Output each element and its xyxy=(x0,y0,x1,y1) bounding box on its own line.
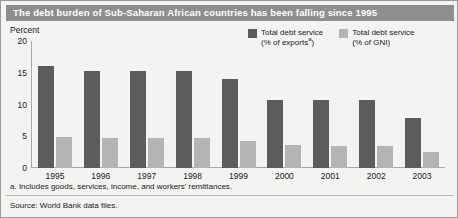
page-title: The debt burden of Sub-Saharan African c… xyxy=(13,7,377,18)
bar-group: 2003 xyxy=(399,41,445,168)
bar xyxy=(423,152,439,169)
x-axis-tick-label: 1996 xyxy=(91,171,110,181)
title-band: The debt burden of Sub-Saharan African c… xyxy=(6,5,454,21)
figure-panel: The debt burden of Sub-Saharan African c… xyxy=(0,0,458,218)
x-axis-tick-label: 1997 xyxy=(137,171,156,181)
source-text: Source: World Bank data files. xyxy=(10,201,117,210)
bar-group: 2001 xyxy=(307,41,353,168)
bar xyxy=(102,138,118,168)
bar xyxy=(222,79,238,168)
bar-group: 1999 xyxy=(216,41,262,168)
legend-swatch-light-gray xyxy=(339,29,348,38)
y-axis-tick-label: 5 xyxy=(22,131,27,141)
bar xyxy=(313,100,329,168)
bar-group: 1997 xyxy=(124,41,170,168)
bar xyxy=(267,100,283,168)
footnote-text: a. Includes goods, services, income, and… xyxy=(10,182,232,191)
bar xyxy=(359,100,375,168)
divider xyxy=(6,195,454,196)
legend-swatch-dark-gray xyxy=(248,29,257,38)
x-axis-tick-label: 2003 xyxy=(413,171,432,181)
bar xyxy=(285,145,301,168)
bar xyxy=(176,71,192,168)
bar xyxy=(148,138,164,168)
bar-group: 1996 xyxy=(78,41,124,168)
bar-group: 1998 xyxy=(170,41,216,168)
bar-group: 2000 xyxy=(261,41,307,168)
x-axis-tick-label: 1995 xyxy=(45,171,64,181)
bar xyxy=(405,118,421,168)
y-axis-tick-label: 20 xyxy=(18,36,27,46)
bar-groups: 199519961997199819992000200120022003 xyxy=(32,41,445,168)
bar-group: 1995 xyxy=(32,41,78,168)
x-axis-tick-label: 2002 xyxy=(367,171,386,181)
y-axis-unit-label: Percent xyxy=(10,25,39,35)
bar xyxy=(84,71,100,168)
x-axis-tick-label: 2001 xyxy=(321,171,340,181)
y-axis-tick-label: 10 xyxy=(18,100,27,110)
bar-group: 2002 xyxy=(353,41,399,168)
bar xyxy=(240,141,256,168)
bar xyxy=(194,138,210,168)
plot-area: 05101520 1995199619971998199920002001200… xyxy=(31,41,445,168)
bar xyxy=(56,137,72,168)
x-axis-tick-label: 1999 xyxy=(229,171,248,181)
y-axis-tick-label: 0 xyxy=(22,163,27,173)
bar xyxy=(331,146,347,168)
y-axis-tick-label: 15 xyxy=(18,68,27,78)
bar xyxy=(38,66,54,168)
x-axis-tick-label: 1998 xyxy=(183,171,202,181)
bar xyxy=(130,71,146,168)
bar xyxy=(377,146,393,168)
x-axis-tick-label: 2000 xyxy=(275,171,294,181)
